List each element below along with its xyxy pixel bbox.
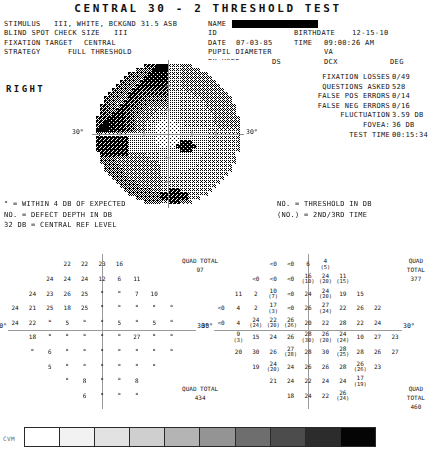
blind-spot-label: BLIND SPOT CHECK SIZE (4, 29, 100, 37)
plot-cell-retest: (20) (267, 323, 280, 329)
quad-total: QUAD TOTAL97 (182, 256, 218, 274)
plot-cell: ° (30, 349, 34, 355)
stat-value: 0/14 (392, 92, 416, 100)
plot-cell-value: 24 (339, 377, 346, 384)
plot-cell-value: ° (169, 318, 173, 326)
plot-cell: 26(26) (354, 361, 367, 373)
plot-cell-value: 25 (81, 289, 88, 296)
plot-cell-value: 5 (48, 362, 52, 369)
cvm-label: CVM (3, 435, 15, 442)
va-label: VA (324, 48, 333, 56)
plot-cell: 6 (118, 276, 122, 282)
plot-cell: ° (65, 378, 69, 384)
plot-cell-value: 23 (391, 333, 398, 340)
plot-cell-value: 30 (322, 348, 329, 355)
plot-cell-value: 22 (322, 318, 329, 325)
plot-cell: 24 (46, 276, 53, 282)
plot-cell: 8 (83, 378, 87, 384)
stat-value: 00:15:34 (392, 131, 416, 139)
plot-cell: ° (48, 334, 52, 340)
plot-cell: 24 (304, 392, 311, 398)
date-value: 07-03-85 (236, 39, 273, 47)
plot-cell: ° (135, 392, 139, 398)
plot-cell-value: ° (100, 318, 104, 326)
page-title: CENTRAL 30 - 2 THRESHOLD TEST (0, 2, 416, 15)
plot-cell: 24 (11, 305, 18, 311)
plot-cell-value: 18 (287, 391, 294, 398)
deg-label: DEG (390, 58, 404, 66)
plot-cell-value: ° (30, 348, 34, 356)
plot-cell: 28 (304, 349, 311, 355)
plot-cell: 24(20) (319, 288, 332, 300)
plot-cell: ° (152, 363, 156, 369)
legend-right-line-1: (NO.) = 2ND/3RD TIME (277, 210, 372, 221)
stat-label: TEST TIME (349, 131, 390, 139)
plot-cell: <0 (287, 305, 294, 311)
plot-cell-value: 18 (64, 304, 71, 311)
plot-cell-value: 22 (81, 260, 88, 267)
scale-swatch (200, 428, 235, 446)
plot-cell: 6 (306, 261, 310, 267)
plot-cell-value: ° (152, 362, 156, 370)
plot-cell: 30 (322, 349, 329, 355)
scale-swatch (306, 428, 341, 446)
plot-cell-value: ° (169, 333, 173, 341)
reliability-indices: FIXATION LOSSES0/49QUESTIONS ASKED528FAL… (256, 73, 416, 140)
plot-cell: ° (65, 349, 69, 355)
stat-label: QUESTIONS ASKED (322, 83, 390, 91)
plot-cell-value: ° (117, 304, 121, 312)
stat-label: FLUCTUATION (340, 111, 390, 119)
plot-cell: 23 (391, 334, 398, 340)
plot-cell-value: 12 (98, 275, 105, 282)
plot-cell-retest: (26) (354, 367, 367, 373)
plot-cell-value: 24 (11, 304, 18, 311)
plot-cell: 30 (252, 349, 259, 355)
stat-row: TEST TIME00:15:34 (256, 131, 416, 141)
header-row-blindspot: BLIND SPOT CHECK SIZE III ID BIRTHDATE 1… (4, 29, 414, 38)
quad-total-value: 434 (182, 393, 218, 402)
scale-swatch (271, 428, 306, 446)
quad-total: QUAD TOTAL460 (407, 384, 425, 411)
plot-cell-value: ° (65, 333, 69, 341)
plot-cell-value: 20 (304, 318, 311, 325)
plot-cell-value: ° (48, 333, 52, 341)
plot-cell-value: 19 (252, 362, 259, 369)
plot-cell: 24(24) (249, 317, 262, 329)
plot-cell-retest: (24) (319, 309, 332, 315)
plot-cell-value: ° (100, 304, 104, 312)
plot-cell-value: ° (100, 377, 104, 385)
plot-cell: ° (135, 349, 139, 355)
plot-cell-retest: (15) (336, 279, 349, 285)
plot-cell-retest: (3) (268, 309, 278, 315)
plot-cell: ° (135, 319, 139, 325)
plot-cell: 27 (391, 349, 398, 355)
plot-cell: 17(3) (268, 302, 278, 314)
pupil-diameter-label: PUPIL DIAMETER (208, 48, 272, 56)
plot-cell: ° (117, 305, 121, 311)
plot-cell: 27(24) (319, 302, 332, 314)
map-degree-right: 30° (246, 128, 258, 136)
plot-cell: ° (117, 363, 121, 369)
plot-cell-value: ° (135, 362, 139, 370)
plot-cell: 6 (48, 349, 52, 355)
plot-cell-value: ° (82, 362, 86, 370)
plot-cell: 22 (304, 378, 311, 384)
plot-cell-value: 28 (339, 362, 346, 369)
defect-depth-plot: 30°30°222223162424241261124232625°°71024… (2, 238, 202, 413)
plot-cell-value: <0 (270, 275, 277, 282)
plot-cell: 4(5) (321, 258, 331, 270)
plot-cell: 24 (81, 276, 88, 282)
plot-cell-value: 23 (374, 362, 381, 369)
plot-cell: 24 (339, 378, 346, 384)
plot-cell-value: 26 (270, 348, 277, 355)
stat-value: 0/49 (392, 73, 416, 81)
eye-label: RIGHT (6, 84, 45, 94)
plot-cell-value: 5 (118, 318, 122, 325)
plot-cell: 24(20) (267, 361, 280, 373)
id-label: ID (208, 29, 217, 37)
plot-cell-value: 24 (46, 275, 53, 282)
plot-cell-value: <0 (270, 260, 277, 267)
plot-cell: 24 (287, 378, 294, 384)
scale-swatch (165, 428, 200, 446)
legend-left-line-1: NO. = DEFECT DEPTH IN DB (4, 210, 126, 221)
